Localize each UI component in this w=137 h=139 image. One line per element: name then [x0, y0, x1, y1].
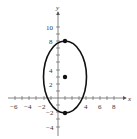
y-tick-label: −4 — [46, 124, 54, 132]
x-tick-label: 6 — [98, 103, 102, 111]
x-tick-label: −6 — [10, 103, 18, 111]
vertex-top-point — [63, 39, 67, 43]
vertex-bottom-point — [63, 111, 67, 115]
x-tick-label: −2 — [38, 103, 46, 111]
y-tick-label: 8 — [49, 38, 53, 46]
y-axis-label: y — [55, 4, 60, 12]
x-axis-label: x — [127, 95, 132, 103]
x-tick-label: −4 — [24, 103, 32, 111]
center-point — [63, 75, 67, 79]
x-tick-label: 4 — [84, 103, 88, 111]
y-tick-label: 4 — [49, 67, 53, 75]
y-tick-label: 2 — [49, 81, 53, 89]
y-tick-label: 10 — [46, 24, 54, 32]
x-tick-label: 8 — [112, 103, 116, 111]
ellipse-graph: x y −6 −4 −2 4 6 8 10 8 4 2 −2 −4 — [0, 0, 137, 139]
y-tick-label: −2 — [46, 109, 54, 117]
